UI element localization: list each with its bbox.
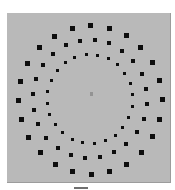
dot-middle bbox=[44, 136, 48, 140]
dot-outer bbox=[52, 34, 57, 39]
dot-outer bbox=[88, 23, 93, 28]
dot-inner bbox=[73, 56, 76, 59]
dot-outer bbox=[16, 98, 21, 103]
dot-inner bbox=[85, 53, 88, 56]
dot-middle bbox=[41, 63, 45, 67]
dot-outer bbox=[70, 26, 75, 31]
dot-outer bbox=[18, 79, 23, 84]
dot-inner bbox=[71, 138, 74, 141]
dot-outer bbox=[26, 135, 31, 140]
dot-outer bbox=[38, 150, 43, 155]
dot-outer bbox=[160, 97, 165, 102]
dot-middle bbox=[112, 150, 116, 154]
dot-outer bbox=[139, 150, 144, 155]
dot-inner bbox=[104, 139, 107, 142]
dot-inner bbox=[131, 93, 134, 96]
dot-inner bbox=[56, 69, 59, 72]
dot-middle bbox=[98, 155, 102, 159]
dot-inner bbox=[121, 126, 124, 129]
dot-outer bbox=[89, 172, 94, 177]
dot-outer bbox=[53, 162, 58, 167]
dot-outer bbox=[25, 61, 30, 66]
dot-inner bbox=[81, 141, 84, 144]
dot-middle bbox=[51, 52, 55, 56]
dot-inner bbox=[93, 142, 96, 145]
dot-outer bbox=[157, 78, 162, 83]
dot-outer bbox=[138, 45, 143, 50]
stimulus-panel bbox=[7, 13, 171, 183]
dot-inner bbox=[114, 134, 117, 137]
dot-middle bbox=[36, 122, 40, 126]
dot-inner bbox=[61, 131, 64, 134]
dot-middle bbox=[64, 43, 68, 47]
dot-inner bbox=[64, 61, 67, 64]
dot-outer bbox=[107, 169, 112, 174]
dot-middle bbox=[124, 142, 128, 146]
dot-outer bbox=[70, 169, 75, 174]
dot-middle bbox=[34, 77, 38, 81]
dot-inner bbox=[123, 72, 126, 75]
dot-inner bbox=[50, 79, 53, 82]
dot-middle bbox=[78, 39, 82, 43]
dot-middle bbox=[107, 41, 111, 45]
dot-inner bbox=[129, 82, 132, 85]
dot-inner bbox=[131, 105, 134, 108]
dot-inner bbox=[48, 113, 51, 116]
fixation-mark bbox=[90, 92, 93, 96]
dot-middle bbox=[142, 117, 146, 121]
dot-middle bbox=[145, 102, 149, 106]
dot-outer bbox=[124, 33, 129, 38]
dot-outer bbox=[150, 134, 155, 139]
dot-middle bbox=[135, 130, 139, 134]
dot-middle bbox=[69, 153, 73, 157]
dot-outer bbox=[19, 117, 24, 122]
dot-middle bbox=[140, 72, 144, 76]
dot-inner bbox=[46, 90, 49, 93]
dot-outer bbox=[124, 162, 129, 167]
dot-inner bbox=[54, 123, 57, 126]
dot-middle bbox=[144, 87, 148, 91]
dot-inner bbox=[46, 102, 49, 105]
dot-middle bbox=[131, 59, 135, 63]
dot-middle bbox=[120, 49, 124, 53]
dot-outer bbox=[107, 26, 112, 31]
dot-outer bbox=[157, 117, 162, 122]
dot-outer bbox=[150, 60, 155, 65]
dot-middle bbox=[32, 108, 36, 112]
dot-middle bbox=[93, 38, 97, 42]
dot-inner bbox=[96, 54, 99, 57]
dot-outer bbox=[37, 45, 42, 50]
caption-fragment bbox=[74, 187, 88, 189]
dot-inner bbox=[107, 57, 110, 60]
dot-inner bbox=[116, 63, 119, 66]
dot-inner bbox=[127, 116, 130, 119]
dot-middle bbox=[83, 156, 87, 160]
dot-middle bbox=[56, 146, 60, 150]
dot-middle bbox=[31, 92, 35, 96]
